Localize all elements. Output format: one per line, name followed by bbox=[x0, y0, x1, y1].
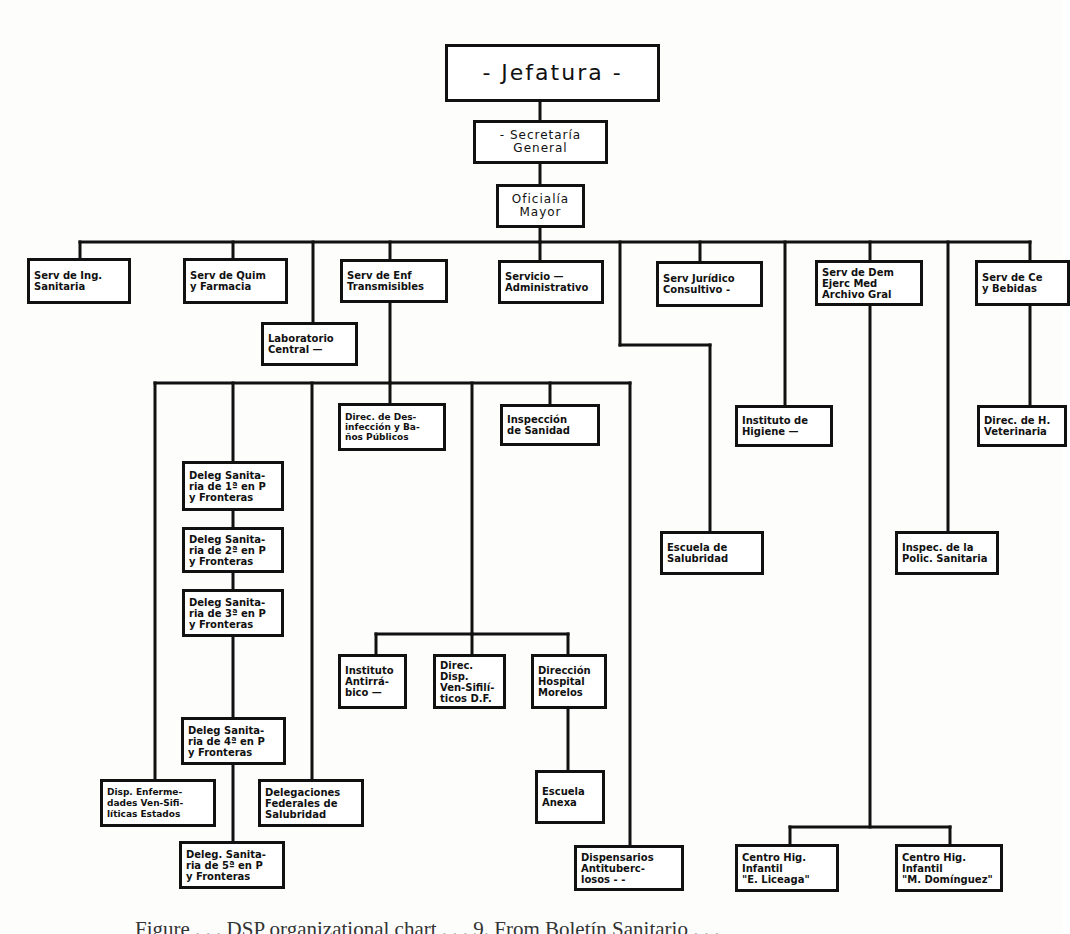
figure-caption: Figure . . . DSP organizational chart . … bbox=[135, 916, 1035, 934]
node-deleg-2: Deleg Sanita- ria de 2ª en P y Fronteras bbox=[182, 527, 284, 573]
node-deleg-1: Deleg Sanita- ria de 1ª en P y Fronteras bbox=[182, 461, 284, 511]
node-serv-enf-transmisibles: Serv de Enf Transmisibles bbox=[340, 259, 448, 303]
node-instituto-higiene: Instituto de Higiene — bbox=[735, 405, 833, 447]
node-servicio-administrativo: Servicio — Administrativo bbox=[498, 260, 604, 304]
node-escuela-anexa: Escuela Anexa bbox=[535, 770, 605, 824]
node-direc-veterinaria: Direc. de H. Veterinaria bbox=[977, 405, 1067, 447]
node-deleg-4: Deleg Sanita- ria de 4ª en P y Fronteras bbox=[181, 717, 286, 765]
node-instituto-antirrabico: Instituto Antirrá- bico — bbox=[338, 654, 407, 709]
node-direc-disp-ven-sifiliticos: Direc. Disp. Ven-Sifilí- ticos D.F. bbox=[433, 654, 506, 709]
node-laboratorio-central: Laboratorio Central — bbox=[261, 322, 358, 366]
node-dispensarios-antituberculosos: Dispensarios Antituberc- losos - - bbox=[574, 845, 684, 891]
node-serv-ing-sanitaria: Serv de Ing. Sanitaria bbox=[27, 258, 131, 304]
node-direc-desinfeccion: Direc. de Des- infección y Ba- ños Públi… bbox=[338, 403, 446, 451]
node-inspec-policia-sanitaria: Inspec. de la Polic. Sanitaria bbox=[895, 531, 999, 575]
node-serv-quim-farmacia: Serv de Quim y Farmacia bbox=[183, 258, 288, 304]
node-direccion-hospital-morelos: Dirección Hospital Morelos bbox=[531, 654, 607, 709]
node-oficialia-mayor: Oficialía Mayor bbox=[496, 184, 585, 228]
node-escuela-salubridad: Escuela de Salubridad bbox=[660, 531, 764, 575]
node-serv-juridico-consultivo: Serv Jurídico Consultivo - bbox=[656, 261, 763, 307]
node-deleg-3: Deleg Sanita- ria de 3ª en P y Fronteras bbox=[182, 589, 284, 637]
node-disp-enf-ven-estados: Disp. Enferme- dades Ven-Sifi- líticas E… bbox=[100, 779, 216, 827]
node-secretaria-general: - Secretaría General bbox=[473, 120, 608, 164]
node-serv-ce-bebidas: Serv de Ce y Bebidas bbox=[975, 260, 1070, 306]
node-deleg-5: Deleg. Sanita- ria de 5ª en P y Frontera… bbox=[179, 841, 285, 889]
node-inspeccion-sanidad: Inspección de Sanidad bbox=[500, 404, 600, 446]
node-centro-hig-liceaga: Centro Hig. Infantil "E. Liceaga" bbox=[735, 844, 839, 892]
node-jefatura: - Jefatura - bbox=[445, 44, 660, 102]
node-serv-dem-ejerc-med: Serv de Dem Ejerc Med Archivo Gral bbox=[815, 260, 923, 306]
node-centro-hig-dominguez: Centro Hig. Infantil "M. Domínguez" bbox=[895, 844, 1003, 892]
node-delegaciones-federales: Delegaciones Federales de Salubridad bbox=[258, 779, 364, 827]
